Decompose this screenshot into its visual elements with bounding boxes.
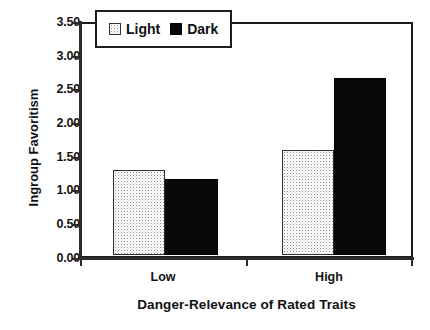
x-axis-title: Danger-Relevance of Rated Traits: [80, 297, 413, 312]
y-tick-label-0-00: 0.00: [14, 251, 80, 265]
plot-area: [80, 22, 413, 258]
x-category-label-low: Low: [151, 270, 176, 284]
legend-item-light: Light: [109, 21, 160, 37]
legend-item-dark: Dark: [170, 21, 218, 37]
bar-high-dark: [334, 78, 386, 255]
y-tick-label-2-00: 2.00: [14, 116, 80, 130]
bar-high-light: [282, 150, 334, 255]
chart-legend: Light Dark: [95, 10, 232, 48]
y-tick-label-1-50: 1.50: [14, 150, 80, 164]
x-category-label-high: High: [315, 270, 343, 284]
y-tick-label-1-00: 1.00: [14, 183, 80, 197]
x-tick-mark-end: [411, 258, 413, 266]
legend-label-dark: Dark: [187, 21, 218, 37]
y-tick-label-3-50: 3.50: [14, 15, 80, 29]
y-tick-label-0-50: 0.50: [14, 217, 80, 231]
legend-label-light: Light: [126, 21, 160, 37]
legend-swatch-light-icon: [109, 23, 121, 35]
y-axis-line: [79, 21, 82, 260]
x-tick-mark-start: [80, 258, 82, 266]
y-tick-label-2-50: 2.50: [14, 82, 80, 96]
bar-chart-figure: 3.50 3.00 2.50 2.00 1.50 1.00 0.50 0.00 …: [0, 0, 430, 330]
y-axis-title: Ingroup Favoritism: [26, 53, 41, 243]
legend-swatch-dark-icon: [170, 23, 182, 35]
x-tick-mark-middle: [246, 258, 248, 266]
bar-low-dark: [165, 179, 218, 255]
bar-low-light: [113, 170, 165, 255]
y-tick-label-3-00: 3.00: [14, 49, 80, 63]
